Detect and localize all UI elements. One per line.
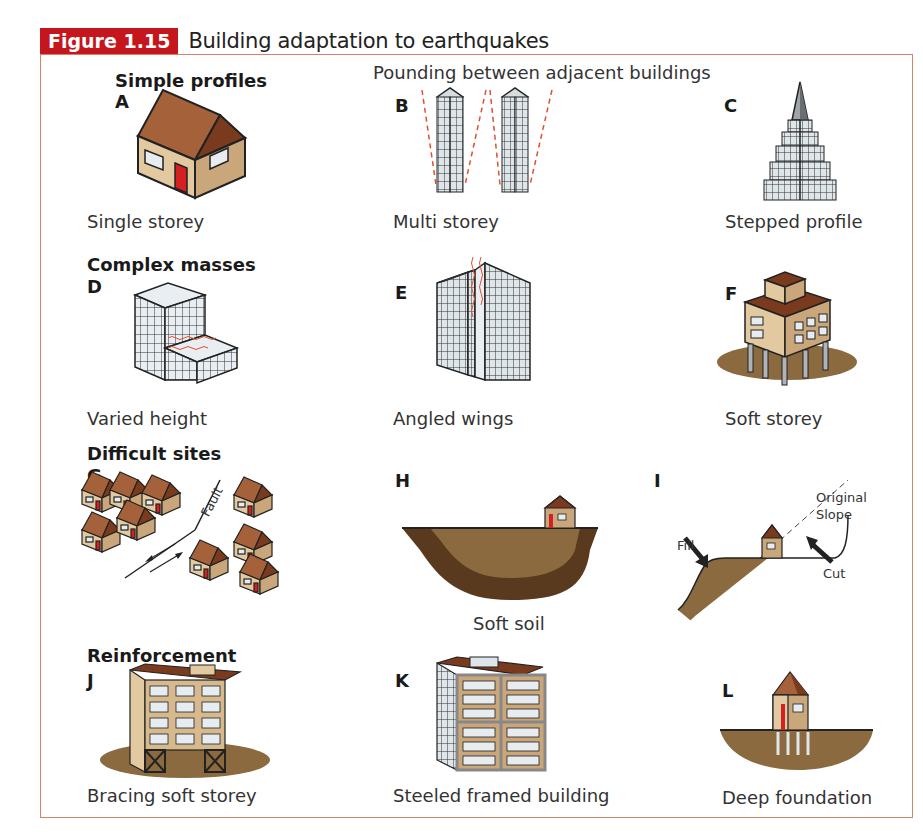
panel-f-caption: Soft storey	[725, 408, 822, 429]
soft-soil-illustration	[400, 490, 600, 605]
houses-on-fault-illustration	[80, 470, 290, 600]
panel-a-caption: Single storey	[87, 211, 204, 232]
panel-d-caption: Varied height	[87, 408, 207, 429]
panel-h-caption: Soft soil	[473, 613, 545, 634]
bracing-soft-storey-illustration	[90, 662, 270, 782]
panel-c-letter: C	[724, 95, 737, 116]
section-complex-masses: Complex masses	[87, 254, 256, 275]
figure-number: Figure 1.15	[40, 28, 178, 54]
pounding-note: Pounding between adjacent buildings	[373, 62, 711, 83]
soft-storey-building-illustration	[715, 262, 860, 392]
panel-d-letter: D	[87, 276, 102, 297]
panel-k-letter: K	[395, 670, 409, 691]
original-slope-label-line1: Original	[816, 490, 867, 505]
single-storey-house-illustration	[135, 88, 250, 198]
section-difficult-sites: Difficult sites	[87, 443, 221, 464]
panel-b-caption: Multi storey	[393, 211, 499, 232]
steel-framed-building-illustration	[435, 655, 575, 775]
panel-a-letter: A	[115, 91, 129, 112]
panel-i-letter: I	[654, 470, 661, 491]
panel-h-letter: H	[395, 470, 410, 491]
panel-j-caption: Bracing soft storey	[87, 785, 257, 806]
varied-height-building-illustration	[133, 280, 243, 385]
panel-e-caption: Angled wings	[393, 408, 513, 429]
original-slope-label-line2: Slope	[816, 507, 852, 522]
angled-wings-building-illustration	[435, 255, 555, 390]
multi-storey-towers-illustration	[420, 85, 560, 195]
fill-label: Fill	[677, 538, 694, 553]
cut-label: Cut	[823, 566, 845, 581]
figure-title: Building adaptation to earthquakes	[178, 28, 549, 54]
stepped-profile-tower-illustration	[760, 80, 840, 205]
panel-e-letter: E	[395, 282, 407, 303]
deep-foundation-illustration	[718, 670, 878, 780]
panel-l-caption: Deep foundation	[722, 787, 872, 808]
panel-k-caption: Steeled framed building	[393, 785, 609, 806]
panel-c-caption: Stepped profile	[725, 211, 863, 232]
panel-b-letter: B	[395, 95, 409, 116]
figure-header: Figure 1.15 Building adaptation to earth…	[40, 28, 549, 54]
